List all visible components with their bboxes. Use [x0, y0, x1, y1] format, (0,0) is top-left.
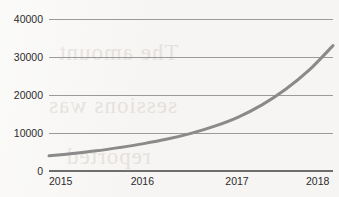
- y-tick-label-20000: 20000: [14, 89, 43, 101]
- x-tick-label-2018: 2018: [306, 175, 329, 187]
- x-tick-label-2016: 2016: [131, 175, 154, 187]
- series-growth-line: [49, 19, 333, 171]
- x-tick-label-2017: 2017: [225, 175, 248, 187]
- y-tick-label-30000: 30000: [14, 51, 43, 63]
- y-tick-label-10000: 10000: [14, 127, 43, 139]
- plot-area: [49, 19, 333, 171]
- growth-curve-path: [49, 46, 333, 156]
- y-tick-label-40000: 40000: [14, 13, 43, 25]
- y-axis-tick-labels: 010000200003000040000: [0, 19, 43, 171]
- x-axis-tick-labels: 2015201620172018: [49, 175, 333, 191]
- exponential-growth-chart: The amount sessions was reported 0100002…: [0, 0, 339, 197]
- y-tick-label-0: 0: [37, 165, 43, 177]
- x-tick-label-2015: 2015: [49, 175, 72, 187]
